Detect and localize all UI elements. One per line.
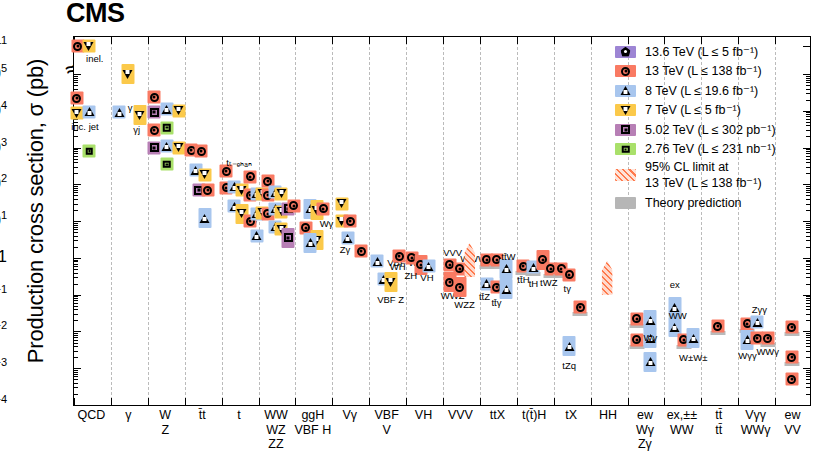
- data-point-marker[interactable]: [161, 122, 172, 133]
- marker-glyph-triangle-up: [621, 86, 631, 95]
- legend-item-5-02tev[interactable]: 5.02 TeV (L ≤ 302 pb⁻¹): [615, 120, 776, 140]
- data-point-marker[interactable]: [372, 256, 383, 267]
- data-point-marker[interactable]: [149, 92, 160, 103]
- data-point-marker[interactable]: [712, 321, 723, 332]
- data-point-marker[interactable]: [454, 263, 465, 274]
- legend-item-13-6tev[interactable]: 13.6 TeV (L ≤ 5 fb⁻¹): [615, 42, 776, 62]
- data-point-marker[interactable]: [454, 282, 465, 293]
- y-axis-minor-tick: [74, 85, 78, 86]
- data-point-marker[interactable]: [336, 198, 347, 209]
- x-axis-tick: [295, 398, 296, 405]
- x-axis-tick: [701, 398, 702, 405]
- data-point-marker[interactable]: [385, 277, 396, 288]
- marker-glyph-triangle-up: [343, 234, 353, 243]
- x-axis-category-label: VVV: [448, 409, 473, 422]
- data-point-marker[interactable]: [786, 352, 797, 363]
- data-point-marker[interactable]: [149, 125, 160, 136]
- y-axis-minor-tick: [806, 320, 810, 321]
- y-axis-minor-tick: [74, 296, 78, 297]
- legend-item-13tev[interactable]: 13 TeV (L ≤ 138 fb⁻¹): [615, 62, 776, 82]
- data-point-marker[interactable]: [345, 216, 356, 227]
- y-axis-minor-tick: [74, 192, 78, 193]
- data-point-marker[interactable]: [564, 341, 575, 352]
- legend-marker-glyph: [620, 124, 631, 135]
- legend-item-cl-limit[interactable]: 95% CL limit at13 TeV (L ≤ 138 fb⁻¹): [615, 159, 776, 193]
- data-point-marker[interactable]: [71, 108, 82, 119]
- data-point-marker[interactable]: [149, 107, 160, 118]
- x-axis-category-line: tt̄: [715, 424, 722, 437]
- data-point-marker[interactable]: [84, 106, 95, 117]
- y-axis-tick-label: 1: [0, 247, 7, 267]
- data-point-marker[interactable]: [356, 246, 367, 257]
- x-axis-category-line: Zγ: [636, 438, 654, 451]
- y-axis-minor-tick: [74, 159, 78, 160]
- y-axis-minor-tick: [806, 277, 810, 278]
- y-axis-tick-label: 1011: [0, 34, 7, 56]
- y-axis-minor-tick: [806, 210, 810, 211]
- legend-item-8tev[interactable]: 8 TeV (L ≤ 19.6 fb⁻¹): [615, 81, 776, 101]
- data-point-marker[interactable]: [786, 322, 797, 333]
- data-point-marker[interactable]: [645, 356, 656, 367]
- legend-item-7tev[interactable]: 7 TeV (L ≤ 5 fb⁻¹): [615, 101, 776, 121]
- marker-glyph-circle: [455, 283, 464, 292]
- legend-item-theory[interactable]: Theory prediction: [615, 193, 776, 213]
- x-axis-tick: [443, 398, 444, 405]
- data-point-marker[interactable]: [83, 41, 94, 52]
- marker-glyph-triangle-up: [162, 105, 172, 114]
- data-point-marker[interactable]: [501, 263, 512, 274]
- data-point-marker[interactable]: [786, 374, 797, 385]
- legend-label: 5.02 TeV (L ≤ 302 pb⁻¹): [645, 124, 776, 137]
- data-point-marker[interactable]: [173, 142, 184, 153]
- data-point-marker[interactable]: [134, 110, 145, 121]
- data-point-marker[interactable]: [423, 261, 434, 272]
- data-point-marker[interactable]: [575, 302, 586, 313]
- x-axis-category-line: Wγ: [636, 424, 654, 437]
- marker-glyph-square: [621, 125, 630, 134]
- y-axis-minor-tick: [806, 204, 810, 205]
- data-point-marker[interactable]: [199, 169, 210, 180]
- data-point-marker[interactable]: [762, 333, 773, 344]
- data-point-marker[interactable]: [122, 69, 133, 80]
- legend-item-2-76tev[interactable]: 2.76 TeV (L ≤ 231 nb⁻¹): [615, 140, 776, 160]
- y-axis-minor-tick: [806, 125, 810, 126]
- data-point-marker[interactable]: [283, 232, 294, 243]
- y-axis-minor-tick: [806, 82, 810, 83]
- data-point-marker[interactable]: [288, 200, 299, 211]
- x-axis-category-line: Z: [159, 424, 171, 437]
- data-point-marker[interactable]: [161, 159, 172, 170]
- data-point-marker[interactable]: [161, 104, 172, 115]
- data-point-marker[interactable]: [245, 171, 256, 182]
- data-point-marker[interactable]: [669, 322, 680, 333]
- data-point-marker[interactable]: [688, 333, 699, 344]
- x-axis-category-line: Vγ: [342, 409, 357, 422]
- data-point-marker[interactable]: [631, 313, 642, 324]
- x-axis-category-label: t: [237, 409, 240, 422]
- data-point-marker[interactable]: [564, 269, 575, 280]
- data-point-marker[interactable]: [199, 213, 210, 224]
- y-axis-minor-tick: [74, 236, 78, 237]
- y-axis-minor-tick: [74, 376, 78, 377]
- data-point-marker[interactable]: [114, 107, 125, 118]
- data-point-marker[interactable]: [752, 317, 763, 328]
- y-axis-minor-tick: [806, 78, 810, 79]
- data-point-marker[interactable]: [71, 93, 82, 104]
- data-point-marker[interactable]: [276, 188, 287, 199]
- data-point-marker[interactable]: [251, 230, 262, 241]
- y-axis-minor-tick: [806, 76, 810, 77]
- data-point-marker[interactable]: [501, 284, 512, 295]
- data-point-marker[interactable]: [202, 185, 213, 196]
- y-axis-minor-tick: [806, 167, 810, 168]
- data-point-marker[interactable]: [631, 334, 642, 345]
- data-point-marker[interactable]: [161, 141, 172, 152]
- data-point-marker[interactable]: [305, 237, 316, 248]
- data-point-marker[interactable]: [84, 146, 95, 157]
- data-point-marker[interactable]: [342, 233, 353, 244]
- data-point-marker[interactable]: [318, 203, 329, 214]
- data-point-marker[interactable]: [173, 105, 184, 116]
- x-axis-tick: [775, 398, 776, 405]
- data-point-label: ZH: [405, 271, 418, 281]
- data-point-marker[interactable]: [196, 146, 207, 157]
- data-point-marker[interactable]: [149, 142, 160, 153]
- data-point-marker[interactable]: [645, 315, 656, 326]
- x-axis-category-line: t: [237, 409, 240, 422]
